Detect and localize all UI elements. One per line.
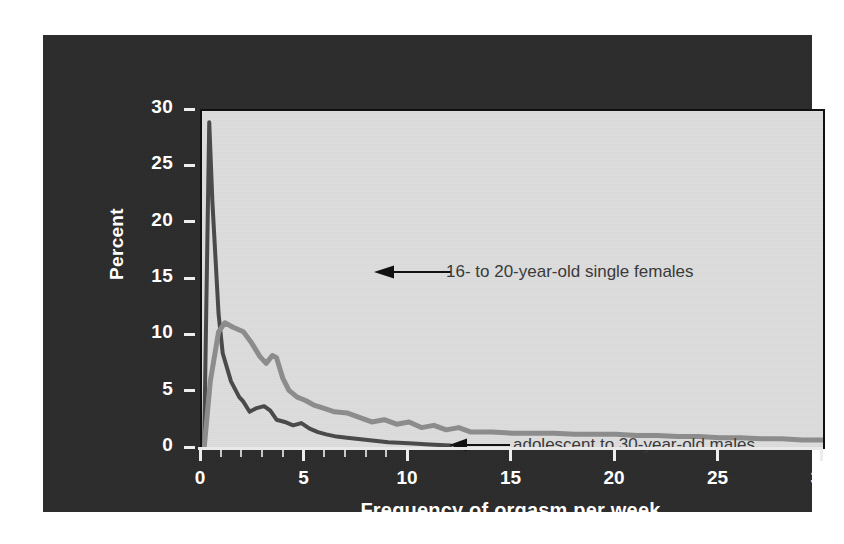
slide-panel: Percent 051015202530 16- to 20-year-old … xyxy=(43,35,812,512)
x-tick-mark xyxy=(613,450,616,461)
x-tick-mark-minor xyxy=(344,450,346,457)
y-tick-label: 5 xyxy=(133,378,173,400)
x-tick-mark-minor xyxy=(240,450,242,457)
x-tick-mark-minor xyxy=(365,450,367,457)
y-tick-mark xyxy=(184,108,195,111)
y-tick-mark xyxy=(184,277,195,280)
x-tick-mark xyxy=(716,450,719,461)
y-tick-mark xyxy=(184,333,195,336)
x-axis-label: Frequency of orgasm per week xyxy=(200,499,821,522)
x-tick-mark xyxy=(302,450,305,461)
y-tick-label: 30 xyxy=(133,96,173,118)
plot-area: 16- to 20-year-old single females adoles… xyxy=(200,109,825,449)
y-tick-mark xyxy=(184,220,195,223)
y-tick-label: 15 xyxy=(133,265,173,287)
x-tick-label: 5 xyxy=(281,467,327,489)
x-tick-mark-minor xyxy=(261,450,263,457)
x-tick-label: 0 xyxy=(177,467,223,489)
x-tick-label: 25 xyxy=(695,467,741,489)
x-tick-label: 10 xyxy=(384,467,430,489)
females-annotation-arrow-icon xyxy=(374,264,452,280)
x-tick-label: 15 xyxy=(488,467,534,489)
x-tick-mark-minor xyxy=(323,450,325,457)
x-tick-mark xyxy=(199,450,202,461)
x-tick-label: 20 xyxy=(591,467,637,489)
x-tick-mark xyxy=(509,450,512,461)
y-tick-label: 25 xyxy=(133,152,173,174)
y-axis-label: Percent xyxy=(106,164,128,324)
x-tick-mark-minor xyxy=(282,450,284,457)
y-tick-mark xyxy=(184,446,195,449)
series-line-0 xyxy=(204,122,450,449)
females-annotation-label: 16- to 20-year-old single females xyxy=(446,262,694,282)
x-tick-mark xyxy=(406,450,409,461)
figure-root: Percent 051015202530 16- to 20-year-old … xyxy=(0,0,844,544)
x-tick-mark-minor xyxy=(220,450,222,457)
x-tick-mark xyxy=(820,450,823,461)
y-tick-mark xyxy=(184,164,195,167)
y-tick-label: 10 xyxy=(133,321,173,343)
males-annotation-arrow-icon xyxy=(449,437,511,453)
y-tick-label: 0 xyxy=(133,434,173,456)
y-tick-label: 20 xyxy=(133,209,173,231)
x-tick-label: 30 xyxy=(798,467,844,489)
y-tick-mark xyxy=(184,389,195,392)
series-line-1 xyxy=(204,323,823,449)
x-tick-mark-minor xyxy=(385,450,387,457)
